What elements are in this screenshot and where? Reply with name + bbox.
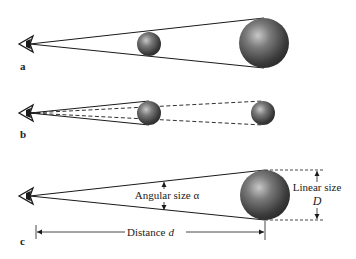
linear-size-label: Linear size — [293, 181, 342, 193]
panel-label-b: b — [20, 128, 26, 140]
distance-label: Distanced — [127, 226, 174, 238]
sightline-top-near — [30, 101, 149, 113]
panel-label-c: c — [20, 235, 25, 247]
panel-c: Angular size α Linear size D Distanced c — [19, 170, 341, 247]
linear-size-symbol: D — [312, 194, 322, 208]
panel-label-a: a — [20, 60, 26, 72]
distance-symbol: d — [168, 226, 174, 238]
near-small-sphere — [137, 32, 161, 56]
panel-a: a — [19, 18, 289, 72]
angular-size-label: Angular size α — [135, 189, 200, 201]
sphere — [240, 170, 290, 220]
distance-word: Distance — [127, 226, 166, 238]
panel-b: b — [19, 101, 275, 140]
near-sphere — [137, 101, 161, 125]
angular-size-diagram: a b Angular size α Linear s — [0, 0, 356, 259]
sightline-bottom-near — [30, 113, 149, 125]
far-sphere — [251, 101, 275, 125]
far-large-sphere — [239, 18, 289, 68]
